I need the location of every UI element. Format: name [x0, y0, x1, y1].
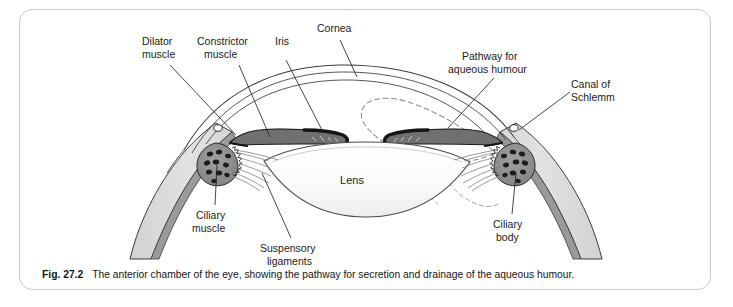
label-ciliary-muscle-line2: muscle: [192, 222, 225, 234]
label-iris: Iris: [275, 35, 289, 47]
label-pathway-line2: aqueous humour: [448, 63, 527, 75]
label-ciliary-muscle-line1: Ciliary: [196, 209, 226, 221]
leader-canal-schlemm: [519, 92, 570, 130]
label-canal-schlemm-line1: Canal of: [571, 78, 610, 90]
eye-anatomy-diagram: Dilator muscle Constrictor muscle Iris C…: [20, 10, 712, 291]
canal-of-schlemm-right: [510, 125, 518, 132]
label-ciliary-body-line1: Ciliary: [493, 218, 523, 230]
label-constrictor-muscle-line2: muscle: [204, 48, 237, 60]
lens: [264, 142, 470, 217]
figure-number: Fig. 27.2: [42, 269, 83, 280]
label-canal-schlemm-line2: Schlemm: [571, 91, 615, 103]
label-ciliary-body-line2: body: [496, 231, 520, 243]
canal-of-schlemm-left: [214, 125, 222, 132]
label-suspensory-line2: ligaments: [267, 255, 312, 267]
figure-caption: Fig. 27.2The anterior chamber of the eye…: [42, 269, 702, 282]
leader-constrictor-muscle: [239, 65, 270, 137]
leader-iris: [286, 60, 323, 132]
label-pathway-line1: Pathway for: [462, 50, 518, 62]
leader-dilator-muscle: [170, 65, 236, 135]
label-cornea: Cornea: [317, 22, 352, 34]
figure-caption-text: The anterior chamber of the eye, showing…: [92, 269, 574, 280]
leader-cornea: [340, 40, 357, 77]
label-suspensory-line1: Suspensory: [260, 242, 316, 254]
ciliary-body-left: [197, 143, 242, 186]
figure-panel: Dilator muscle Constrictor muscle Iris C…: [19, 9, 711, 290]
label-dilator-muscle-line1: Dilator: [142, 35, 173, 47]
label-dilator-muscle-line2: muscle: [142, 48, 175, 60]
ciliary-body-right: [490, 143, 535, 186]
label-constrictor-muscle-line1: Constrictor: [197, 35, 248, 47]
label-lens: Lens: [340, 174, 364, 186]
